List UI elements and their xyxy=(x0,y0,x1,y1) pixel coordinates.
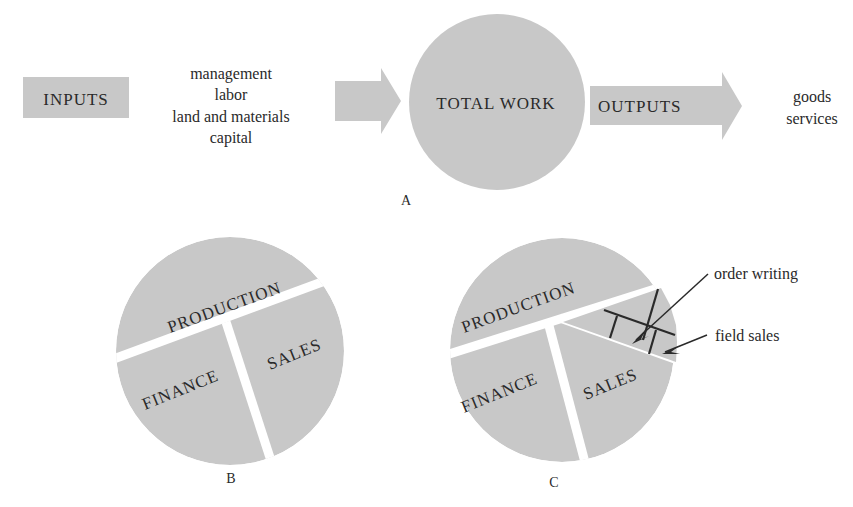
total-work-label: TOTAL WORK xyxy=(436,94,555,113)
caption-a: A xyxy=(401,193,412,208)
annotation-order-writing: order writing xyxy=(714,265,798,283)
diagram-a: INPUTS management labor land and materia… xyxy=(23,14,838,208)
diagram-b: PRODUCTION FINANCE SALES B xyxy=(100,237,360,486)
output-item: services xyxy=(786,110,838,127)
input-arrow-icon xyxy=(335,68,401,134)
output-item: goods xyxy=(793,88,831,106)
input-item: capital xyxy=(210,129,253,147)
organization-diagram: INPUTS management labor land and materia… xyxy=(0,0,853,507)
caption-b: B xyxy=(226,471,235,486)
outputs-label: OUTPUTS xyxy=(598,97,682,116)
annotation-field-sales: field sales xyxy=(715,327,779,344)
inputs-label: INPUTS xyxy=(43,90,109,109)
input-item: land and materials xyxy=(172,108,289,125)
caption-c: C xyxy=(549,475,558,490)
input-item: management xyxy=(190,65,272,83)
diagram-c: order writing field sales PRODUCTION FIN… xyxy=(430,238,798,490)
input-item: labor xyxy=(215,86,249,103)
